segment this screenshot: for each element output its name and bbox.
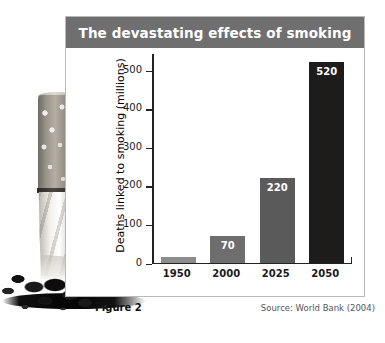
bar-series: 70220520 — [154, 55, 353, 263]
y-tick-500: 500 — [146, 71, 152, 73]
source-note: Source: World Bank (2004) — [261, 303, 375, 313]
bar-value-label-2000: 70 — [210, 240, 245, 251]
plot-box: 0100200300400500 70220520 — [152, 54, 352, 264]
bar-2000[interactable]: 70 — [210, 236, 245, 263]
bar-value-label-2025: 220 — [260, 182, 295, 193]
y-tick-300: 300 — [146, 148, 152, 150]
x-tick-label-1950: 1950 — [152, 268, 202, 279]
x-axis-line — [152, 263, 352, 265]
y-tick-0: 0 — [146, 264, 152, 266]
x-tick-label-2025: 2025 — [251, 268, 301, 279]
bar-1950[interactable] — [161, 257, 196, 263]
y-tick-label-400: 400 — [123, 102, 142, 113]
x-axis-tick-labels: 1950200020252050 — [152, 268, 352, 282]
chart-panel: The devastating effects of smoking Death… — [65, 16, 365, 297]
y-tick-100: 100 — [146, 225, 152, 227]
bar-2050[interactable]: 520 — [309, 62, 344, 262]
y-tick-label-0: 0 — [136, 257, 142, 268]
y-tick-label-200: 200 — [123, 179, 142, 190]
y-tick-400: 400 — [146, 109, 152, 111]
bar-2025[interactable]: 220 — [260, 178, 295, 263]
y-tick-label-500: 500 — [123, 64, 142, 75]
y-axis-title: Deaths linked to smoking (millions) — [112, 48, 128, 263]
x-tick-label-2050: 2050 — [301, 268, 351, 279]
y-tick-label-300: 300 — [123, 141, 142, 152]
y-tick-label-100: 100 — [123, 218, 142, 229]
caption-row: Figure 2 Source: World Bank (2004) — [95, 302, 380, 318]
bar-value-label-2050: 520 — [309, 66, 344, 77]
chart-title: The devastating effects of smoking — [66, 17, 364, 48]
x-tick-label-2000: 2000 — [202, 268, 252, 279]
y-tick-200: 200 — [146, 186, 152, 188]
figure-caption: Figure 2 — [95, 302, 142, 313]
plot-area: Deaths linked to smoking (millions) 0100… — [66, 48, 364, 297]
